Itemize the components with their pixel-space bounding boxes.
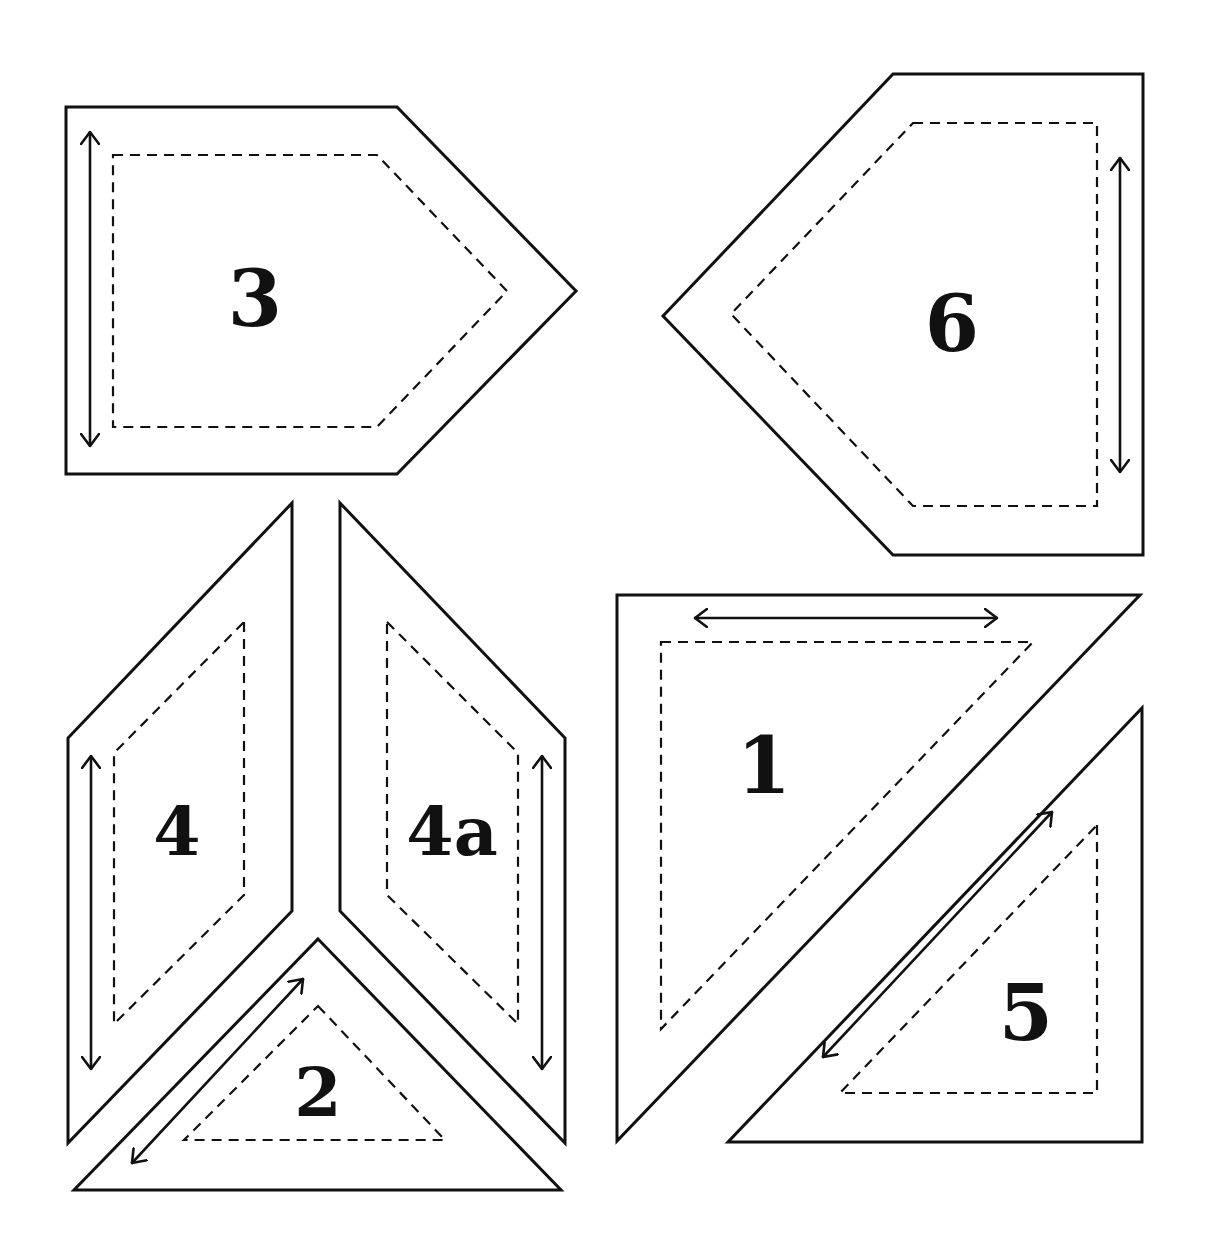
piece-label: 5 bbox=[999, 967, 1053, 1058]
template-piece-6: 6 bbox=[663, 74, 1143, 555]
piece-label: 2 bbox=[294, 1052, 341, 1132]
template-piece-3: 3 bbox=[66, 107, 576, 474]
piece-label: 3 bbox=[228, 253, 282, 344]
piece-label: 6 bbox=[925, 278, 979, 369]
piece-label: 4 bbox=[153, 791, 200, 871]
piece-label: 1 bbox=[737, 720, 791, 811]
piece-label: 4a bbox=[406, 791, 497, 871]
cut-line bbox=[663, 74, 1143, 555]
cut-line bbox=[66, 107, 576, 474]
quilt-template-diagram: 3644a215 bbox=[0, 0, 1210, 1257]
